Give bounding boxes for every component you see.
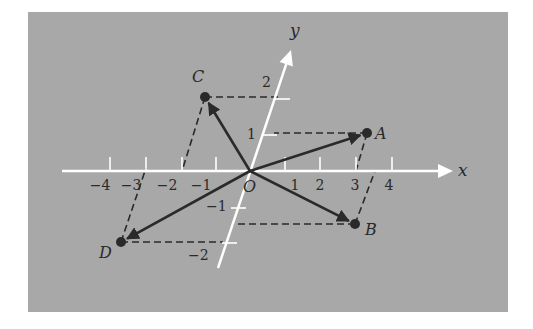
point-c-dot (200, 92, 210, 102)
point-d-label: D (98, 243, 112, 262)
point-d-dot (116, 237, 126, 247)
origin-label: O (243, 177, 256, 196)
gray-panel (28, 12, 508, 312)
x-tick-label: −3 (121, 177, 142, 193)
point-c-label: C (192, 67, 204, 86)
point-b-label: B (364, 220, 377, 239)
point-a-label: A (373, 124, 387, 143)
x-tick-label: −2 (157, 177, 178, 193)
point-b-dot (350, 219, 360, 229)
y-tick-label: −1 (206, 198, 227, 214)
y-tick-label: −2 (188, 247, 209, 263)
vector-diagram: −4−3−2−11234x21−1−2yABCDO (0, 0, 533, 329)
y-axis-label: y (289, 20, 300, 40)
x-tick-label: 1 (291, 177, 300, 193)
x-axis-label: x (458, 160, 468, 180)
x-tick-label: 3 (351, 177, 360, 193)
y-tick-label: 1 (247, 126, 256, 142)
y-tick-label: 2 (262, 74, 271, 90)
x-tick-label: −1 (191, 177, 212, 193)
x-tick-label: 4 (385, 177, 394, 193)
x-tick-label: 2 (316, 177, 325, 193)
point-a-dot (362, 128, 372, 138)
x-tick-label: −4 (90, 177, 111, 193)
